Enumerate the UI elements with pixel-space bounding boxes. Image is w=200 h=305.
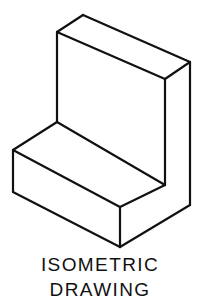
upright-slab-right-side-face xyxy=(165,62,190,205)
caption-line-drawing: DRAWING xyxy=(0,277,200,302)
isometric-drawing-figure: ISOMETRIC DRAWING xyxy=(0,0,200,305)
figure-caption: ISOMETRIC DRAWING xyxy=(0,252,200,302)
caption-line-isometric: ISOMETRIC xyxy=(0,252,200,277)
isometric-block-illustration xyxy=(0,0,200,258)
